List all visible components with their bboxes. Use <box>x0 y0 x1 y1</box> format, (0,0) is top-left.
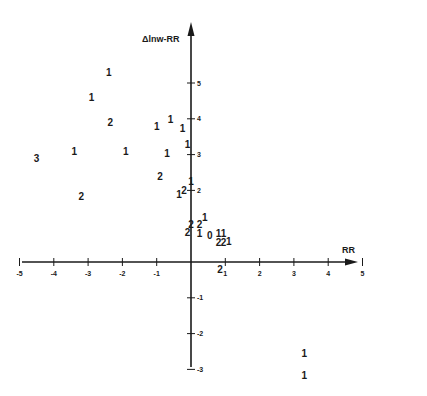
data-point: 1 <box>202 212 208 223</box>
y-axis-title: Δlnw-RR <box>142 34 180 44</box>
x-tick-label: 3 <box>292 270 296 277</box>
data-point: 1 <box>89 92 95 103</box>
x-tick-label: -5 <box>16 270 22 277</box>
y-tick-label: -3 <box>197 366 203 373</box>
y-tick-label: -1 <box>197 294 203 301</box>
data-point: 1 <box>164 148 170 159</box>
data-point: 1 <box>301 348 307 359</box>
data-point: 1 <box>106 67 112 78</box>
x-tick-label: 2 <box>258 270 262 277</box>
y-tick-label: 2 <box>197 187 201 194</box>
axes: -5-4-3-2-112345 5432-1-2-3 RR Δlnw-RR <box>16 22 364 373</box>
x-axis-arrow-icon <box>345 259 358 266</box>
data-point: 2 <box>157 171 163 182</box>
data-point: 1 <box>226 236 232 247</box>
data-point: 2 <box>185 227 191 238</box>
data-point: 1 <box>72 146 78 157</box>
data-point: 3 <box>34 153 40 164</box>
y-tick-label: -2 <box>197 330 203 337</box>
data-point: 1 <box>176 189 182 200</box>
x-tick-label: 4 <box>326 270 330 277</box>
y-tick-label: 4 <box>197 115 201 122</box>
y-tick-label: 5 <box>197 80 201 87</box>
data-point: 1 <box>123 146 129 157</box>
data-point: 1 <box>188 176 194 187</box>
x-tick-label: -2 <box>119 270 125 277</box>
x-tick-label: -4 <box>51 270 57 277</box>
data-point: 1 <box>154 121 160 132</box>
data-point: 2 <box>108 117 114 128</box>
data-points: 112111131112121212221011221211 <box>34 67 308 381</box>
scatter-plot: -5-4-3-2-112345 5432-1-2-3 RR Δlnw-RR 11… <box>0 0 427 396</box>
data-point: 2 <box>217 264 223 275</box>
data-point: 1 <box>197 228 203 239</box>
x-axis-title: RR <box>342 245 355 255</box>
data-point: 2 <box>181 185 187 196</box>
data-point: 1 <box>180 123 186 134</box>
data-point: 1 <box>301 370 307 381</box>
data-point: 2 <box>78 191 84 202</box>
y-tick-label: 3 <box>197 151 201 158</box>
x-tick-label: -1 <box>154 270 160 277</box>
x-tick-label: 5 <box>361 270 365 277</box>
data-point: 0 <box>207 230 213 241</box>
x-tick-label: -3 <box>85 270 91 277</box>
y-axis-arrow-icon <box>188 22 195 36</box>
data-point: 1 <box>168 114 174 125</box>
x-tick-label: 1 <box>223 270 227 277</box>
data-point: 1 <box>185 139 191 150</box>
